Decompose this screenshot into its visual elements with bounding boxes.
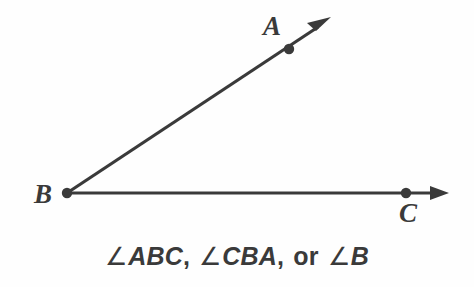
ray-bc-arrowhead [430, 186, 449, 200]
ray-ba-arrowhead [307, 17, 331, 31]
angle-notation-caption: ∠ABC,∠CBA,or∠B [0, 242, 474, 271]
point-dot-b [62, 188, 72, 198]
ray-ba [67, 17, 331, 193]
angle-name-abc: ABC [128, 242, 183, 270]
angle-symbol-1: ∠ [105, 242, 128, 270]
caption-conjunction: or [293, 242, 318, 270]
point-label-a: A [261, 11, 281, 41]
ray-ba-line [67, 27, 318, 193]
caption-comma-2: , [277, 242, 284, 270]
point-label-c: C [399, 198, 418, 228]
angle-name-cba: CBA [222, 242, 277, 270]
point-dot-c [401, 188, 411, 198]
ray-bc [67, 186, 449, 200]
angle-name-b: B [351, 242, 369, 270]
angle-symbol-2: ∠ [199, 242, 222, 270]
caption-comma-1: , [183, 242, 190, 270]
point-label-b: B [33, 179, 52, 209]
point-dot-a [284, 44, 294, 54]
angle-symbol-3: ∠ [328, 242, 351, 270]
